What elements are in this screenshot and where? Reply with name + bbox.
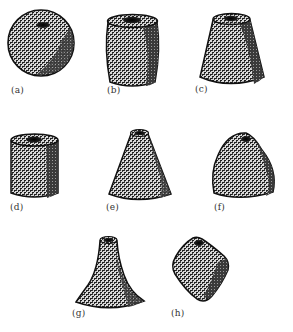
shape-a-sphere xyxy=(8,10,74,76)
shape-e-cone xyxy=(109,130,171,200)
label-a: (a) xyxy=(11,86,24,95)
solid-shapes-figure: (a) (b) (c) (d) (e) (f) (g) (h) xyxy=(0,0,293,332)
label-d: (d) xyxy=(10,203,23,212)
shape-f-rounded-tetrahedron xyxy=(213,133,275,197)
shape-b-barrel xyxy=(106,15,158,87)
label-g: (g) xyxy=(72,309,85,318)
label-c: (c) xyxy=(195,85,208,94)
shape-g-flared-cone xyxy=(76,237,144,308)
label-f: (f) xyxy=(214,203,225,212)
label-e: (e) xyxy=(106,203,119,212)
label-h: (h) xyxy=(171,309,184,318)
shape-c-truncated-cone xyxy=(200,14,264,85)
shape-h-rounded-cube xyxy=(173,237,229,301)
figure-canvas xyxy=(0,0,293,332)
label-b: (b) xyxy=(107,86,120,95)
shape-d-cylinder xyxy=(11,134,58,198)
